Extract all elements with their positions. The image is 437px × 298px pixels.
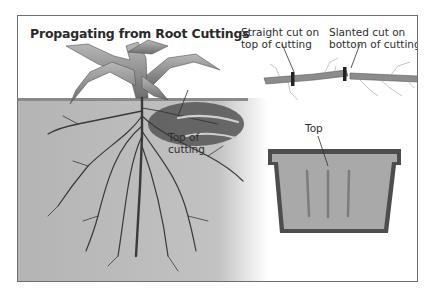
straight-cut-mark: [291, 72, 295, 86]
plant-leaves: [66, 40, 220, 104]
flower-pot: [268, 136, 401, 233]
diagram-title: Propagating from Root Cuttings: [30, 26, 249, 41]
diagram-frame: Propagating from Root Cuttings Top of cu…: [17, 15, 418, 282]
label-pot-top: Top: [305, 122, 323, 134]
label-straight-cut: Straight cut on top of cutting: [241, 26, 319, 50]
label-top-of-cutting: Top of cutting: [168, 131, 205, 155]
label-slanted-cut: Slanted cut on bottom of cutting: [329, 26, 418, 50]
illustration: [18, 16, 418, 282]
slanted-cut-mark: [343, 67, 347, 81]
root-cutting: [264, 44, 418, 100]
